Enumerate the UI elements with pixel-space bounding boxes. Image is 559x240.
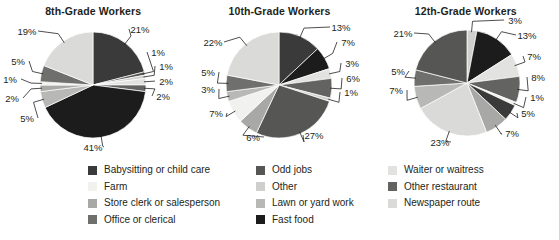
pie-slice-percent-label: 22%: [203, 37, 222, 48]
pie-slice-percent-label: 3%: [345, 58, 359, 69]
legend-item[interactable]: Store clerk or salesperson: [88, 195, 220, 212]
pie-slice-percent-label: 2%: [159, 76, 173, 87]
legend-item-label: Farm: [104, 182, 127, 192]
pie-slice-percent-label: 23%: [430, 137, 449, 148]
legend-item[interactable]: Farm: [88, 179, 220, 196]
legend-item-label: Other restaurant: [404, 182, 477, 192]
legend-column-2: Odd jobsOtherLawn or yard workFast food: [256, 162, 354, 228]
legend-item-label: Other: [272, 182, 297, 192]
legend-item[interactable]: Other restaurant: [388, 179, 484, 196]
legend-item[interactable]: Office or clerical: [88, 212, 220, 229]
legend-item-label: Store clerk or salesperson: [104, 198, 220, 208]
pie-slice-percent-label: 5%: [11, 56, 25, 67]
legend-swatch-icon: [256, 182, 265, 191]
legend-swatch-icon: [388, 199, 397, 208]
pie-slice-percent-label: 1%: [3, 74, 17, 85]
legend-item[interactable]: Lawn or yard work: [256, 195, 354, 212]
legend-column-1: Babysitting or child careFarmStore clerk…: [88, 162, 220, 228]
legend-swatch-icon: [88, 215, 97, 224]
legend-item-label: Lawn or yard work: [272, 198, 354, 208]
legend-item[interactable]: Odd jobs: [256, 162, 354, 179]
legend-item-label: Office or clerical: [104, 215, 176, 225]
legend-swatch-icon: [256, 215, 265, 224]
pie-slice-percent-label: 7%: [527, 51, 541, 62]
legend-swatch-icon: [88, 199, 97, 208]
legend-item[interactable]: Waiter or waitress: [388, 162, 484, 179]
legend-item-label: Waiter or waitress: [404, 165, 484, 175]
pie-slice-percent-label: 3%: [508, 15, 522, 26]
legend-item-label: Fast food: [272, 215, 314, 225]
pie-slice-percent-label: 21%: [130, 24, 149, 35]
pie-svg-8th-grade: [0, 0, 186, 158]
pie-slice-percent-label: 3%: [201, 84, 215, 95]
pie-slice-percent-label: 27%: [304, 130, 323, 141]
pie-slice-percent-label: 5%: [391, 66, 405, 77]
legend-swatch-icon: [256, 166, 265, 175]
legend-swatch-icon: [88, 166, 97, 175]
legend-item-label: Newspaper route: [404, 198, 480, 208]
legend-item[interactable]: Fast food: [256, 212, 354, 229]
legend-item[interactable]: Other: [256, 179, 354, 196]
pie-slice-percent-label: 6%: [346, 73, 360, 84]
legend: Babysitting or child careFarmStore clerk…: [0, 160, 559, 240]
legend-swatch-icon: [256, 199, 265, 208]
pie-slice-percent-label: 1%: [159, 61, 173, 72]
legend-item-label: Babysitting or child care: [104, 165, 210, 175]
pie-slice-percent-label: 7%: [389, 85, 403, 96]
pie-slice-percent-label: 7%: [209, 108, 223, 119]
legend-swatch-icon: [88, 182, 97, 191]
pie-slice-percent-label: 6%: [246, 132, 260, 143]
pie-slice-percent-label: 2%: [5, 93, 19, 104]
pie-slice-percent-label: 13%: [331, 22, 350, 33]
pie-chart-panel: 8th-Grade Workers 10th-Grade Workers 12t…: [0, 0, 559, 158]
pie-slice-percent-label: 1%: [344, 87, 358, 98]
pie-slice-percent-label: 5%: [521, 108, 535, 119]
legend-swatch-icon: [388, 182, 397, 191]
legend-swatch-icon: [388, 166, 397, 175]
pie-slice-percent-label: 5%: [201, 67, 215, 78]
pie-slice-percent-label: 8%: [531, 72, 545, 83]
pie-slice-percent-label: 2%: [156, 91, 170, 102]
pie-slice-percent-label: 41%: [83, 142, 102, 153]
pie-slice-percent-label: 1%: [151, 47, 165, 58]
pie-slice-percent-label: 13%: [517, 30, 536, 41]
pie-slice-percent-label: 5%: [20, 113, 34, 124]
pie-slice-percent-label: 7%: [505, 128, 519, 139]
pie-slice-percent-label: 1%: [530, 92, 544, 103]
pie-slice-percent-label: 21%: [393, 28, 412, 39]
legend-item-label: Odd jobs: [272, 165, 312, 175]
legend-column-3: Waiter or waitressOther restaurantNewspa…: [388, 162, 484, 212]
pie-slice-percent-label: 7%: [341, 37, 355, 48]
legend-item[interactable]: Newspaper route: [388, 195, 484, 212]
legend-item[interactable]: Babysitting or child care: [88, 162, 220, 179]
pie-slice-percent-label: 19%: [17, 26, 36, 37]
